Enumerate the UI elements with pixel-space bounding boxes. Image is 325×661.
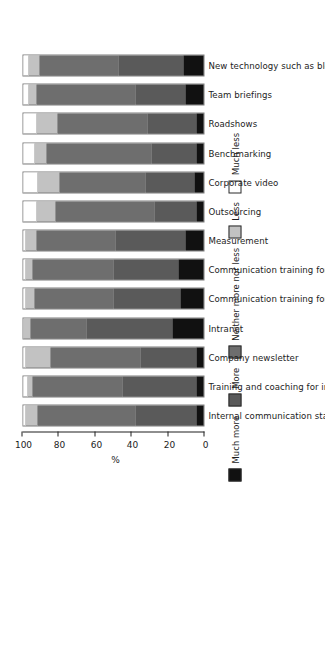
category-tick: Company newsletter (208, 346, 320, 368)
plot-area (22, 54, 204, 426)
bar-segment (25, 288, 34, 308)
axis-tick (130, 431, 131, 436)
stacked-bar (22, 404, 204, 426)
category-label: Intranet (208, 323, 243, 333)
stacked-bar (22, 200, 204, 222)
bar-segment (59, 172, 145, 192)
bar-segment (23, 318, 30, 338)
axis-tick (94, 431, 95, 436)
bar-segment (135, 405, 196, 425)
bar-segment (183, 55, 203, 75)
bar-segment (36, 113, 58, 133)
category-tick: Communication training for senior leader… (208, 258, 320, 280)
axis-tick (203, 431, 204, 436)
bar-segment (23, 55, 28, 75)
bar-group (22, 54, 204, 426)
bar-segment (147, 113, 196, 133)
category-tick: Internal communication staff (208, 404, 320, 426)
stacked-bar (22, 375, 204, 397)
bar-segment (34, 288, 113, 308)
bar-segment (32, 259, 113, 279)
bar-segment (172, 318, 203, 338)
bar-segment (196, 143, 203, 163)
stacked-bar (22, 112, 204, 134)
axis-tick-label: 60 (87, 439, 105, 449)
bar-segment (115, 230, 185, 250)
category-label: Communication training for managers (208, 293, 325, 303)
bar-segment (36, 230, 115, 250)
bar-segment (196, 376, 203, 396)
bar-segment (23, 84, 28, 104)
bar-segment (39, 55, 118, 75)
bar-segment (194, 172, 203, 192)
bar-segment (196, 347, 203, 367)
category-axis: Internal communication staffTraining and… (208, 54, 320, 426)
stacked-bar (22, 229, 204, 251)
category-label: Measurement (208, 235, 268, 245)
bar-segment (37, 172, 59, 192)
bar-segment (36, 84, 135, 104)
bar-segment (28, 84, 35, 104)
stacked-bar (22, 317, 204, 339)
bar-segment (196, 201, 203, 221)
axis-tick (167, 431, 168, 436)
bar-segment (196, 405, 203, 425)
bar-segment (46, 143, 150, 163)
bar-segment (180, 288, 203, 308)
category-label: Communication training for senior leader… (208, 264, 325, 274)
bar-segment (25, 347, 50, 367)
category-tick: Measurement (208, 229, 320, 251)
category-label: Benchmarking (208, 148, 271, 158)
bar-segment (151, 143, 196, 163)
bar-segment (50, 347, 140, 367)
bar-segment (32, 376, 122, 396)
bar-segment (30, 318, 86, 338)
stacked-bar (22, 83, 204, 105)
bar-segment (140, 347, 196, 367)
bar-segment (55, 201, 154, 221)
axis-tick-label: 40 (123, 439, 141, 449)
bar-segment (178, 259, 203, 279)
bar-segment (25, 259, 32, 279)
bar-segment (25, 405, 38, 425)
axis-tick-label: 20 (160, 439, 178, 449)
bar-segment (118, 55, 183, 75)
category-label: Team briefings (208, 89, 272, 99)
category-tick: Corporate video (208, 171, 320, 193)
category-label: Internal communication staff (208, 410, 325, 420)
stacked-bar (22, 171, 204, 193)
bar-segment (23, 172, 37, 192)
bar-segment (36, 201, 56, 221)
category-tick: Team briefings (208, 83, 320, 105)
bar-segment (145, 172, 194, 192)
axis-tick (21, 431, 22, 436)
axis-tick-label: 0 (196, 439, 214, 449)
stacked-bar (22, 258, 204, 280)
stacked-bar (22, 346, 204, 368)
bar-segment (23, 113, 36, 133)
bar-segment (122, 376, 196, 396)
bar-segment (135, 84, 185, 104)
category-label: Roadshows (208, 118, 257, 128)
category-label: Outsourcing (208, 206, 261, 216)
category-tick: Benchmarking (208, 142, 320, 164)
bar-segment (37, 405, 134, 425)
stacked-bar (22, 287, 204, 309)
bar-segment (185, 230, 203, 250)
category-tick: Communication training for managers (208, 287, 320, 309)
category-label: Corporate video (208, 177, 278, 187)
bar-segment (185, 84, 203, 104)
bar-segment (34, 143, 47, 163)
category-label: Company newsletter (208, 352, 298, 362)
axis-tick-label: 80 (50, 439, 68, 449)
bar-segment (27, 376, 32, 396)
bar-segment (23, 376, 27, 396)
category-tick: Training and coaching for internal commu… (208, 375, 320, 397)
axis-tick (57, 431, 58, 436)
bar-segment (28, 55, 39, 75)
category-tick: Intranet (208, 317, 320, 339)
chart-figure: Much moreMoreNeither more nor lessLessMu… (0, 0, 325, 661)
bar-segment (23, 201, 36, 221)
stacked-bar (22, 54, 204, 76)
category-tick: Roadshows (208, 112, 320, 134)
